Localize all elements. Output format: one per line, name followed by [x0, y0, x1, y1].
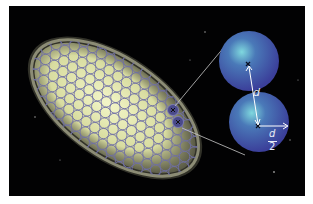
radius-label-denominator: 2 — [269, 141, 275, 152]
radius-label-numerator: d — [269, 128, 275, 139]
galaxy-diagram — [0, 0, 313, 204]
distance-label: d — [253, 86, 260, 99]
sphere-top — [219, 31, 279, 91]
